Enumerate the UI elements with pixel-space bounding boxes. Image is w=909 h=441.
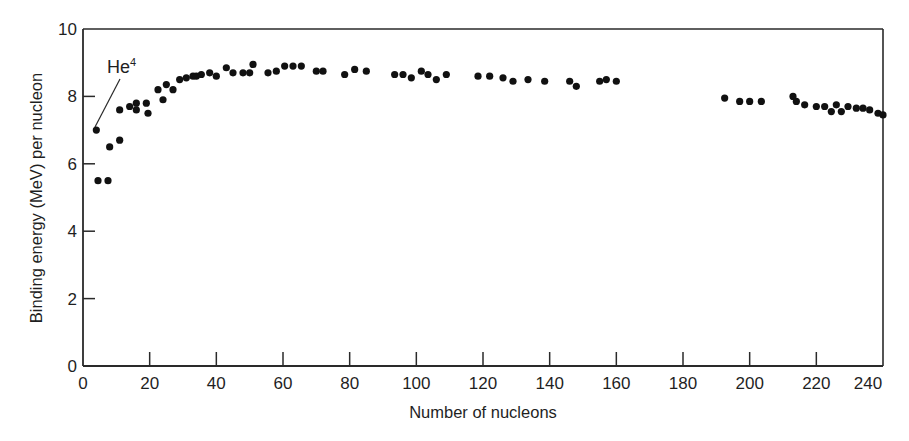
he4-annotation: He4 [95,56,136,127]
data-point [229,69,236,76]
y-tick-label: 8 [68,87,77,106]
data-point [524,76,531,83]
y-axis-ticks: 0246810 [58,20,95,376]
annotation-label: He4 [107,56,136,77]
data-point [801,101,808,108]
x-axis-title: Number of nucleons [409,403,557,421]
data-point [264,69,271,76]
data-point [391,71,398,78]
data-point [613,78,620,85]
data-point [281,62,288,69]
x-tick-label: 200 [735,374,763,393]
data-point [104,177,111,184]
x-tick-label: 100 [402,374,430,393]
y-tick-label: 6 [68,155,77,174]
data-point [94,177,101,184]
x-tick-label: 0 [78,374,87,393]
data-point [106,143,113,150]
data-point [746,98,753,105]
x-tick-label: 120 [469,374,497,393]
data-point [758,98,765,105]
data-point [844,103,851,110]
data-point [144,110,151,117]
data-point [821,103,828,110]
y-axis-title: Binding energy (MeV) per nucleon [27,73,45,323]
x-tick-label: 220 [802,374,830,393]
data-point [879,111,886,118]
data-point [163,81,170,88]
data-point [116,137,123,144]
data-point [838,108,845,115]
data-point [736,98,743,105]
data-point [133,100,140,107]
y-tick-label: 4 [68,222,77,241]
data-point [206,69,213,76]
data-point [246,69,253,76]
data-point [298,62,305,69]
data-point [351,66,358,73]
data-point [418,68,425,75]
data-point [424,71,431,78]
x-tick-label: 60 [274,374,293,393]
data-point [143,100,150,107]
data-point [399,71,406,78]
data-point [133,106,140,113]
data-point [866,106,873,113]
data-point [183,74,190,81]
data-point [566,78,573,85]
x-tick-label: 40 [207,374,226,393]
data-point [486,73,493,80]
data-point [603,76,610,83]
data-point [363,68,370,75]
data-point [198,71,205,78]
x-axis-ticks: 020406080100120140160180200220240 [78,352,882,393]
plot-frame [83,29,883,366]
data-point [433,76,440,83]
data-point [408,74,415,81]
data-point [541,78,548,85]
data-point [859,105,866,112]
data-point [833,101,840,108]
data-point [853,105,860,112]
data-point [154,86,161,93]
data-point [573,83,580,90]
data-point [509,78,516,85]
data-point [813,103,820,110]
data-point [793,98,800,105]
data-point [159,96,166,103]
data-point [239,69,246,76]
data-point [596,78,603,85]
data-point [341,71,348,78]
x-tick-label: 240 [854,374,882,393]
x-tick-label: 140 [535,374,563,393]
x-tick-label: 160 [602,374,630,393]
data-point [313,68,320,75]
data-point [169,86,176,93]
y-tick-label: 0 [68,357,77,376]
x-tick-label: 80 [340,374,359,393]
data-point [273,68,280,75]
data-point [443,71,450,78]
annotation-leader-line [95,79,120,127]
data-point [721,94,728,101]
y-tick-label: 10 [58,20,77,39]
binding-energy-chart: 020406080100120140160180200220240 024681… [0,0,909,441]
data-point [249,61,256,68]
y-tick-label: 2 [68,290,77,309]
data-point [126,103,133,110]
data-point [289,62,296,69]
data-point [828,108,835,115]
data-point [499,74,506,81]
data-point [474,73,481,80]
data-point [213,73,220,80]
data-point [176,76,183,83]
data-point [223,64,230,71]
data-points [93,61,887,184]
data-point [93,127,100,134]
data-point [319,68,326,75]
x-tick-label: 180 [669,374,697,393]
data-point [116,106,123,113]
x-tick-label: 20 [140,374,159,393]
